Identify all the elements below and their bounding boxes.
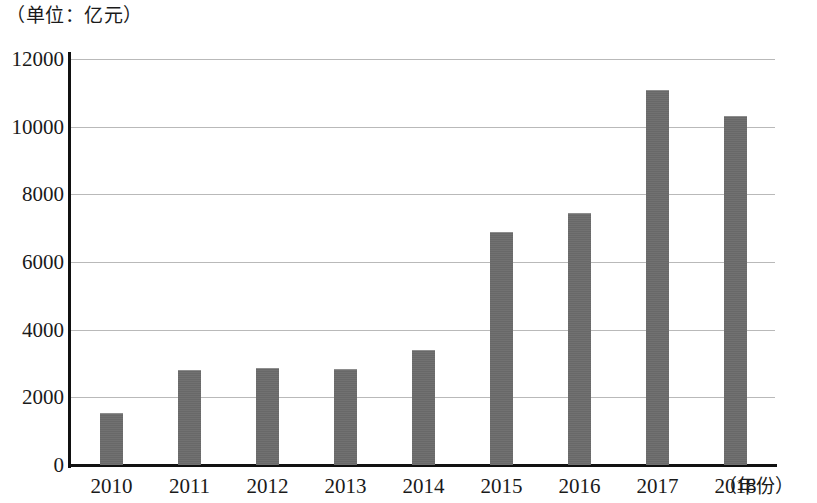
bars-layer xyxy=(70,59,775,465)
y-axis-tick-label: 10000 xyxy=(2,116,64,137)
x-axis-tick-label-2016: 2016 xyxy=(559,473,601,499)
bar-2017 xyxy=(646,90,669,465)
bar-2013 xyxy=(334,369,357,465)
x-axis-tick-label-2017: 2017 xyxy=(637,473,679,499)
y-axis-tick-label: 8000 xyxy=(2,184,64,205)
bar-2014 xyxy=(412,350,435,465)
x-axis-tick-labels: （年份） 20102011201220132014201520162017201… xyxy=(0,473,817,503)
y-axis-tick-label: 4000 xyxy=(2,319,64,340)
x-axis-tick-label-2011: 2011 xyxy=(169,473,210,499)
bar-2012 xyxy=(256,368,279,465)
x-axis-tick-label-2013: 2013 xyxy=(325,473,367,499)
x-axis-tick-label-2012: 2012 xyxy=(247,473,289,499)
x-axis-tick-label-2010: 2010 xyxy=(91,473,133,499)
y-axis-tick-labels: 020004000600080001000012000 xyxy=(0,0,64,503)
x-axis-tick-label-2014: 2014 xyxy=(403,473,445,499)
y-axis-tick-label: 2000 xyxy=(2,387,64,408)
bar-2011 xyxy=(178,370,201,465)
bar-2018 xyxy=(724,116,747,465)
bar-2015 xyxy=(490,232,513,465)
bar-2016 xyxy=(568,213,591,465)
bar-chart: （单位：亿元） 020004000600080001000012000 （年份）… xyxy=(0,0,817,503)
x-axis-tick-label-2018: 2018 xyxy=(715,473,757,499)
bar-2010 xyxy=(100,413,123,465)
y-axis-tick-label: 12000 xyxy=(2,49,64,70)
x-axis-tick-label-2015: 2015 xyxy=(481,473,523,499)
y-axis-tick-label: 6000 xyxy=(2,252,64,273)
